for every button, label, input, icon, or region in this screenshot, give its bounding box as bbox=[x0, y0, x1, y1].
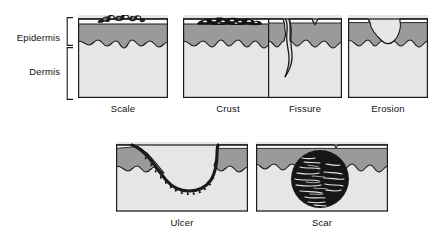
panel-crust bbox=[183, 15, 273, 98]
caption-scale: Scale bbox=[78, 104, 168, 114]
dermis-bracket bbox=[66, 47, 74, 100]
panel-ulcer bbox=[116, 142, 248, 212]
panel-erosion bbox=[348, 15, 428, 98]
caption-crust: Crust bbox=[183, 104, 273, 114]
layer-label-dermis: Dermis bbox=[8, 67, 60, 77]
caption-ulcer: Ulcer bbox=[116, 218, 248, 228]
caption-scar: Scar bbox=[256, 218, 388, 228]
panel-scar bbox=[256, 142, 388, 212]
epidermis-bracket bbox=[66, 17, 74, 46]
skin-lesion-diagram: Epidermis Dermis bbox=[0, 0, 437, 237]
panel-fissure bbox=[268, 15, 342, 98]
layer-label-epidermis: Epidermis bbox=[8, 33, 60, 43]
panel-scale bbox=[78, 15, 168, 98]
caption-erosion: Erosion bbox=[344, 104, 432, 114]
caption-fissure: Fissure bbox=[261, 104, 349, 114]
